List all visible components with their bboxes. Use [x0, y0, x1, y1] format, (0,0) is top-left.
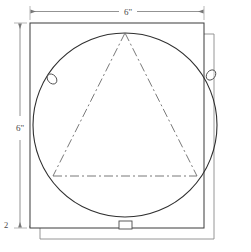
square-plate-outline	[30, 23, 204, 228]
marker-right	[204, 68, 218, 82]
dimension-label-thickness: 2	[4, 220, 8, 230]
dimension-bottom-left-thickness: 2	[4, 212, 31, 230]
dimension-left-height: 6"	[14, 23, 27, 228]
dimension-label-top: 6"	[124, 7, 133, 17]
marker-bottom	[119, 221, 132, 229]
rectangle-marker-icon	[119, 221, 132, 229]
technical-drawing-canvas: 6" 6" 2	[0, 0, 251, 252]
dimension-top-width: 6"	[30, 6, 204, 20]
oval-marker-icon	[204, 68, 218, 82]
dimension-label-left: 6"	[16, 123, 25, 133]
engineering-drawing: 6" 6" 2	[0, 0, 251, 252]
square-plate	[30, 23, 204, 228]
